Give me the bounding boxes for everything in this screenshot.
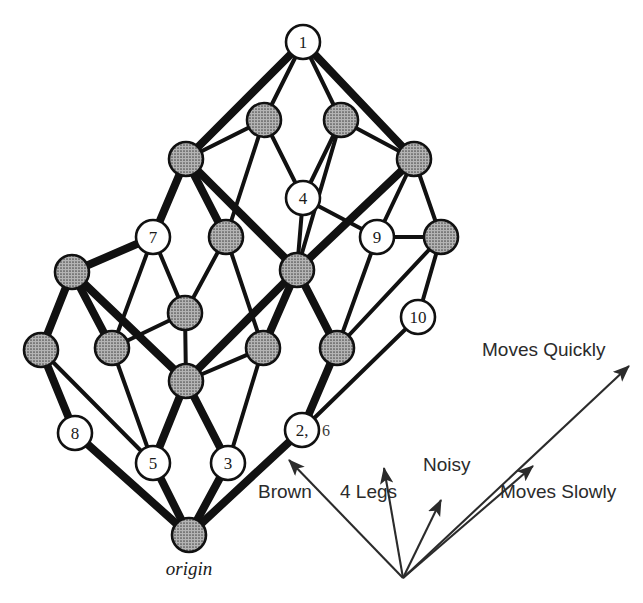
node-label: 8 — [71, 424, 80, 443]
lattice-node[interactable] — [172, 518, 206, 552]
node-circle-filled — [424, 220, 458, 254]
node-circle-filled — [247, 103, 281, 137]
attribute-label-moves-slowly: Moves Slowly — [500, 481, 617, 502]
node-circle-filled — [95, 331, 129, 365]
lattice-node[interactable] — [55, 255, 89, 289]
lattice-node[interactable] — [397, 142, 431, 176]
lattice-node-7[interactable]: 7 — [136, 220, 170, 254]
lattice-node-5[interactable]: 5 — [136, 446, 170, 480]
lattice-node-8[interactable]: 8 — [58, 416, 92, 450]
node-circle-filled — [169, 142, 203, 176]
node-circle-filled — [320, 331, 354, 365]
lattice-node[interactable] — [247, 103, 281, 137]
lattice-edge — [186, 159, 297, 270]
node-circle-filled — [55, 255, 89, 289]
node-label: 5 — [149, 454, 158, 473]
lattice-node[interactable] — [168, 296, 202, 330]
lattice-diagram: 14791082,653 Brown4 LegsNoisyMoves Quick… — [0, 0, 643, 603]
node-circle-filled — [280, 253, 314, 287]
node-circle-filled — [209, 220, 243, 254]
node-circle-filled — [397, 142, 431, 176]
node-label: 3 — [224, 454, 233, 473]
node-label: 4 — [299, 189, 308, 208]
node-circle-filled — [172, 518, 206, 552]
lattice-node[interactable] — [324, 103, 358, 137]
node-label: 1 — [299, 33, 308, 52]
lattice-node-3[interactable]: 3 — [211, 446, 245, 480]
lattice-node-1[interactable]: 1 — [286, 25, 320, 59]
attribute-label-four-legs: 4 Legs — [340, 481, 397, 502]
lattice-edge — [75, 433, 189, 535]
lattice-edge — [72, 272, 186, 381]
lattice-figure: 14791082,653 Brown4 LegsNoisyMoves Quick… — [0, 0, 643, 603]
lattice-node[interactable] — [24, 333, 58, 367]
attribute-label-moves-quickly: Moves Quickly — [482, 339, 606, 360]
node-circle-filled — [246, 331, 280, 365]
lattice-node[interactable] — [280, 253, 314, 287]
lattice-node-2[interactable]: 2,6 — [285, 413, 330, 447]
lattice-node-9[interactable]: 9 — [360, 220, 394, 254]
node-label: 2, — [296, 421, 309, 440]
attribute-label-brown: Brown — [258, 481, 312, 502]
lattice-node[interactable] — [424, 220, 458, 254]
lattice-node-10[interactable]: 10 — [401, 300, 435, 334]
lattice-node[interactable] — [95, 331, 129, 365]
origin-label: origin — [166, 558, 212, 579]
node-label: 10 — [410, 308, 427, 327]
lattice-edge — [112, 348, 153, 463]
lattice-node[interactable] — [169, 364, 203, 398]
lattice-node-4[interactable]: 4 — [286, 181, 320, 215]
attribute-arrow-noisy — [403, 500, 441, 578]
lattice-edge — [302, 317, 418, 430]
node-circle-filled — [324, 103, 358, 137]
origin-label-layer: origin — [166, 558, 212, 579]
lattice-node[interactable] — [246, 331, 280, 365]
lattice-node[interactable] — [209, 220, 243, 254]
node-label: 9 — [373, 228, 382, 247]
node-label: 7 — [149, 228, 158, 247]
attribute-label-noisy: Noisy — [423, 454, 471, 475]
lattice-edge — [303, 42, 414, 159]
lattice-node[interactable] — [169, 142, 203, 176]
lattice-edge — [41, 350, 153, 463]
node-circle-filled — [169, 364, 203, 398]
node-circle-filled — [24, 333, 58, 367]
node-circle-filled — [168, 296, 202, 330]
lattice-edge — [186, 42, 303, 159]
node-extra-label: 6 — [322, 422, 330, 439]
lattice-node[interactable] — [320, 331, 354, 365]
